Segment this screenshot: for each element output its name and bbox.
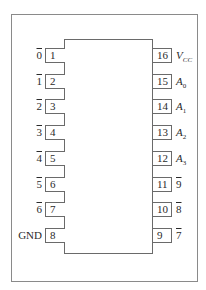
- pin-9: 9: [153, 228, 172, 243]
- pin-11-signal-label: 9: [176, 177, 182, 192]
- signal-name: 0: [37, 49, 43, 61]
- signal-subscript: 2: [183, 133, 187, 141]
- pin-13: 13: [153, 125, 172, 140]
- signal-name: V: [176, 49, 183, 61]
- pin-10-signal-label: 8: [176, 202, 182, 217]
- pin-8-signal-label: GND: [18, 228, 42, 243]
- signal-name: A: [176, 126, 183, 138]
- pin-7-signal-label: 6: [37, 202, 43, 217]
- signal-name: A: [176, 100, 183, 112]
- pin-15-signal-label: A0: [176, 74, 186, 94]
- pin-14: 14: [153, 99, 172, 114]
- signal-name: 5: [37, 178, 43, 190]
- pin-4: 4: [45, 125, 65, 140]
- pin-16-signal-label: VCC: [176, 48, 192, 68]
- signal-subscript: CC: [183, 56, 192, 64]
- pin-11: 11: [153, 177, 172, 192]
- signal-subscript: 3: [183, 159, 187, 167]
- pin-2-signal-label: 1: [37, 74, 43, 89]
- pin-3-signal-label: 2: [37, 99, 43, 114]
- pin-2: 2: [45, 74, 65, 89]
- signal-name: 8: [176, 203, 182, 215]
- signal-name: 9: [176, 178, 182, 190]
- pin-13-signal-label: A2: [176, 125, 186, 145]
- pin-15: 15: [153, 74, 172, 89]
- signal-name: 4: [37, 152, 43, 164]
- pin-16: 16: [153, 48, 172, 63]
- signal-name: 2: [37, 100, 43, 112]
- pin-6: 6: [45, 177, 65, 192]
- pin-14-signal-label: A1: [176, 99, 186, 119]
- signal-name: A: [176, 75, 183, 87]
- pin-12: 12: [153, 151, 172, 166]
- pin-1-signal-label: 0: [37, 48, 43, 63]
- pin-5-signal-label: 4: [37, 151, 43, 166]
- pin-3: 3: [45, 99, 65, 114]
- ic-chip-body: [64, 39, 153, 254]
- pin-8: 8: [45, 228, 65, 243]
- signal-name: A: [176, 152, 183, 164]
- signal-name: 1: [37, 75, 43, 87]
- signal-subscript: 0: [183, 82, 187, 90]
- pin-10: 10: [153, 202, 172, 217]
- pin-12-signal-label: A3: [176, 151, 186, 171]
- signal-name: 7: [176, 229, 182, 241]
- pin-9-signal-label: 7: [176, 228, 182, 243]
- signal-name: 3: [37, 126, 43, 138]
- signal-name: 6: [37, 203, 43, 215]
- signal-name: GND: [18, 229, 42, 241]
- pin-7: 7: [45, 202, 65, 217]
- pin-4-signal-label: 3: [37, 125, 43, 140]
- pin-5: 5: [45, 151, 65, 166]
- pin-6-signal-label: 5: [37, 177, 43, 192]
- pin-1: 1: [45, 48, 65, 63]
- signal-subscript: 1: [183, 107, 187, 115]
